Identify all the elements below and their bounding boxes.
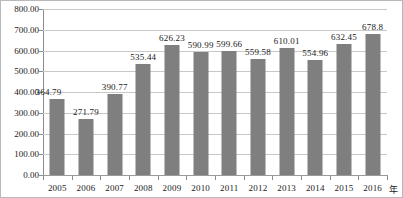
x-axis-tick-label: 2013 (277, 183, 296, 193)
bar-value-label: 559.58 (245, 47, 271, 57)
bar-value-label: 390.77 (102, 82, 128, 92)
y-axis-tick-label: 200.00 (1, 129, 39, 139)
x-axis-tick-label: 2007 (105, 183, 124, 193)
bar-value-label: 271.79 (73, 107, 99, 117)
bar-value-label: 632.45 (331, 32, 357, 42)
bar-slot: 610.01 (272, 9, 301, 175)
bar-value-label: 626.23 (159, 33, 185, 43)
bar-slot: 632.45 (330, 9, 359, 175)
bar[interactable] (193, 52, 208, 175)
x-axis-tick-mark (72, 176, 73, 180)
bar-value-label: 554.96 (302, 48, 328, 58)
x-axis-tick-mark (244, 176, 245, 180)
x-axis-unit-label: 年 (389, 183, 398, 196)
bar[interactable] (164, 45, 179, 175)
x-axis-tick-label: 2009 (163, 183, 182, 193)
bar-value-label: 599.66 (216, 39, 242, 49)
bar-slot: 599.66 (215, 9, 244, 175)
x-axis-tick-label: 2012 (249, 183, 268, 193)
bar-slot: 364.79 (43, 9, 72, 175)
x-axis-tick-label: 2006 (77, 183, 96, 193)
y-axis-tick-label: 300.00 (1, 108, 39, 118)
x-axis-tick-mark (129, 176, 130, 180)
x-axis-tick-mark (272, 176, 273, 180)
bar-slot: 271.79 (72, 9, 101, 175)
x-axis-tick-label: 2015 (335, 183, 354, 193)
x-axis-tick-mark (301, 176, 302, 180)
bar[interactable] (308, 60, 323, 175)
x-axis-tick-mark (100, 176, 101, 180)
x-axis-tick-label: 2016 (363, 183, 382, 193)
bar-slot: 554.96 (301, 9, 330, 175)
bar-value-label: 610.01 (274, 36, 300, 46)
x-axis-tick-mark (330, 176, 331, 180)
bar-slot: 559.58 (244, 9, 273, 175)
bar[interactable] (365, 34, 380, 175)
y-axis-tick-label: 700.00 (1, 25, 39, 35)
bar[interactable] (250, 59, 265, 175)
bar-chart: 800.00700.00600.00500.00400.00300.00200.… (0, 0, 403, 198)
bar-slot: 390.77 (100, 9, 129, 175)
bar[interactable] (136, 64, 151, 175)
x-axis-tick-mark (158, 176, 159, 180)
x-axis-tick-mark (186, 176, 187, 180)
y-axis-tick-label: 500.00 (1, 66, 39, 76)
bar-slot: 535.44 (129, 9, 158, 175)
bar[interactable] (222, 51, 237, 175)
x-axis-tick-label: 2011 (220, 183, 238, 193)
x-axis-tick-label: 2005 (48, 183, 67, 193)
bar-slot: 678.8 (358, 9, 387, 175)
bar-slot: 590.99 (186, 9, 215, 175)
y-axis-tick-label: 400.00 (1, 87, 39, 97)
y-axis-tick-label: 800.00 (1, 4, 39, 14)
x-axis-tick-mark (215, 176, 216, 180)
bar[interactable] (78, 119, 93, 175)
x-axis-tick-label: 2008 (134, 183, 153, 193)
bar-value-label: 678.8 (362, 22, 383, 32)
bar[interactable] (50, 99, 65, 175)
x-axis-tick-mark (387, 176, 388, 180)
y-axis-tick-label: 600.00 (1, 46, 39, 56)
bar-value-label: 364.79 (36, 87, 62, 97)
x-axis-tick-mark (358, 176, 359, 180)
bar[interactable] (107, 94, 122, 175)
y-axis-tick-label: 100.00 (1, 149, 39, 159)
x-axis-tick-mark (43, 176, 44, 180)
x-axis-tick-label: 2010 (191, 183, 210, 193)
y-axis-tick-label: 0.00 (1, 170, 39, 180)
bar-value-label: 535.44 (130, 52, 156, 62)
bar-slot: 626.23 (158, 9, 187, 175)
bar-value-label: 590.99 (188, 40, 214, 50)
x-axis-tick-label: 2014 (306, 183, 325, 193)
bar[interactable] (336, 44, 351, 175)
plot-area: 364.79271.79390.77535.44626.23590.99599.… (43, 9, 387, 175)
bar[interactable] (279, 48, 294, 175)
